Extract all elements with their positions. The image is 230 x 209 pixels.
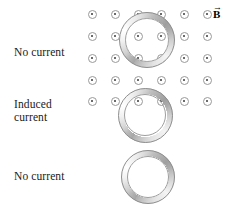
state-label-top: No current <box>14 46 65 59</box>
field-out-of-page-dot <box>203 54 212 63</box>
field-out-of-page-dot <box>203 76 212 85</box>
field-out-of-page-dot <box>88 10 97 19</box>
field-out-of-page-dot <box>111 54 120 63</box>
field-out-of-page-dot <box>111 76 120 85</box>
field-out-of-page-dot <box>88 97 97 106</box>
field-out-of-page-dot <box>203 97 212 106</box>
field-out-of-page-dot <box>203 10 212 19</box>
field-out-of-page-dot <box>180 10 189 19</box>
induction-figure: → B No current Induced current No curren… <box>0 0 230 209</box>
field-out-of-page-dot <box>111 10 120 19</box>
ring-inner-edge <box>127 156 169 198</box>
ring-inner-edge <box>125 18 169 62</box>
field-out-of-page-dot <box>88 76 97 85</box>
field-out-of-page-dot <box>180 97 189 106</box>
field-out-of-page-dot <box>180 32 189 41</box>
field-out-of-page-dot <box>111 97 120 106</box>
field-out-of-page-dot <box>180 54 189 63</box>
field-out-of-page-dot <box>88 32 97 41</box>
field-out-of-page-dot <box>88 54 97 63</box>
field-out-of-page-dot <box>203 32 212 41</box>
field-out-of-page-dot <box>157 76 166 85</box>
state-label-bottom: No current <box>14 170 65 183</box>
magnetic-field-label: → B <box>213 5 222 20</box>
ring-middle <box>118 88 173 143</box>
field-out-of-page-dot <box>180 76 189 85</box>
field-out-of-page-dot <box>134 76 143 85</box>
ring-bottom <box>121 150 175 204</box>
state-label-middle: Induced current <box>14 98 52 123</box>
ring-top <box>119 12 175 68</box>
magnetic-field-symbol: B <box>213 8 220 20</box>
